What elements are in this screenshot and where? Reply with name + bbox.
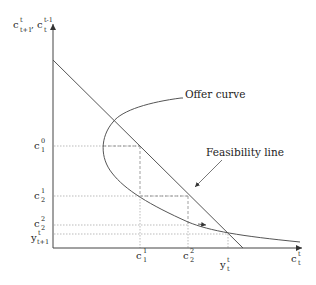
x-axis-title: c t t	[291, 250, 301, 267]
y-tick-c2-1: c 1 2	[34, 187, 45, 204]
svg-text:c: c	[13, 19, 19, 30]
svg-text:t: t	[298, 250, 301, 258]
svg-text:t-1: t-1	[44, 16, 53, 24]
y-tick-y-t1: y t t+1	[30, 229, 49, 246]
svg-text:y: y	[219, 259, 226, 270]
svg-text:c: c	[34, 190, 40, 201]
svg-text:1: 1	[143, 247, 147, 255]
svg-text:2: 2	[190, 247, 194, 255]
svg-text:c: c	[34, 140, 40, 151]
y-axis-title: c t t+1 , c t-1 t	[13, 16, 53, 34]
svg-text:2: 2	[41, 215, 45, 223]
svg-text:c: c	[37, 19, 43, 30]
svg-text:1: 1	[41, 146, 45, 154]
x-tick-y-t: y t t	[219, 256, 230, 273]
svg-text:1: 1	[143, 256, 147, 264]
offer-curve-label: Offer curve	[185, 88, 245, 100]
svg-text:t: t	[44, 26, 47, 34]
svg-text:c: c	[291, 253, 297, 264]
svg-text:t: t	[298, 259, 301, 267]
y-tick-c1-0: c 0 1	[34, 137, 45, 154]
direction-arrow	[198, 224, 206, 225]
feasibility-pointer	[195, 160, 222, 187]
svg-text:,: ,	[31, 20, 34, 30]
svg-text:2: 2	[41, 224, 45, 232]
x-tick-c2-2: c 2 2	[183, 247, 194, 264]
svg-text:t: t	[20, 16, 23, 24]
svg-text:c: c	[136, 250, 142, 261]
svg-text:0: 0	[41, 137, 45, 145]
svg-text:y: y	[30, 232, 37, 243]
svg-text:1: 1	[41, 187, 45, 195]
svg-text:t: t	[38, 229, 41, 237]
svg-text:t: t	[227, 265, 230, 273]
offer-curve-diagram: Offer curve Feasibility line c t t+1 , c…	[0, 0, 316, 285]
offer-curve	[103, 98, 300, 242]
svg-text:t: t	[227, 256, 230, 264]
svg-text:c: c	[183, 250, 189, 261]
svg-text:2: 2	[41, 196, 45, 204]
svg-text:2: 2	[190, 256, 194, 264]
svg-text:t+1: t+1	[37, 238, 49, 246]
x-tick-c1-1: c 1 1	[136, 247, 147, 264]
svg-text:c: c	[34, 218, 40, 229]
feasibility-line-label: Feasibility line	[206, 146, 284, 158]
